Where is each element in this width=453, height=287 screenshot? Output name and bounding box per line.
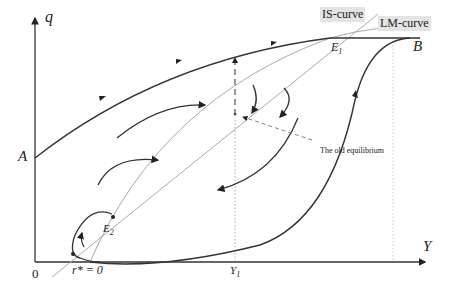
- old-equilibrium-label: The old equilibrium: [320, 146, 384, 155]
- e2-text: E: [103, 222, 110, 234]
- trajectory-a: [35, 38, 420, 158]
- old-equilibrium-pointer: [243, 117, 312, 140]
- point-a-label: A: [18, 148, 27, 165]
- point-b-label: B: [413, 38, 422, 55]
- point-e1-label: E1: [331, 40, 342, 56]
- is-curve-label: IS-curve: [320, 7, 365, 22]
- y-axis-label: q: [45, 8, 53, 26]
- flow-arrow-5: [218, 118, 298, 190]
- r-zero-label: r* = 0: [72, 263, 103, 278]
- e1-sub: 1: [338, 47, 342, 56]
- phase-diagram: [0, 0, 453, 287]
- y1-sub: 1: [236, 270, 240, 279]
- origin-label: 0: [32, 266, 39, 282]
- y1-label: Y1: [230, 264, 240, 279]
- x-axis-label: Y: [423, 238, 431, 255]
- e2-sub: 2: [110, 228, 114, 237]
- flow-arrow-1: [117, 105, 205, 138]
- lm-curve-label: LM-curve: [378, 16, 431, 31]
- point-e2-label: E2: [103, 222, 114, 237]
